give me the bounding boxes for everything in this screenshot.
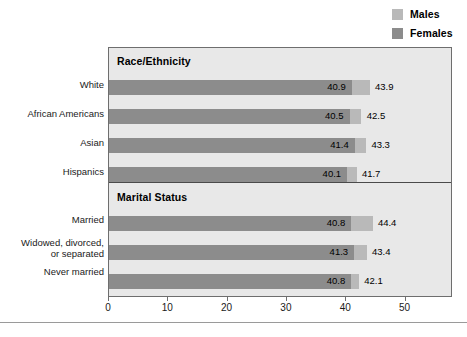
legend-swatch-icon-females <box>392 28 403 39</box>
x-tick-20 <box>227 297 228 301</box>
value-female-widowed-divorced-separated: 41.3 <box>314 246 348 257</box>
category-label-widowed-divorced-separated: Widowed, divorced, or separated <box>0 237 104 259</box>
x-tick-label-50: 50 <box>399 302 410 313</box>
category-label-african-americans: African Americans <box>0 108 104 119</box>
value-male-married: 44.4 <box>378 217 397 228</box>
value-female-never-married: 40.8 <box>311 275 345 286</box>
x-tick-0 <box>108 297 109 301</box>
panel-title-marital-status: Marital Status <box>117 191 187 203</box>
value-male-never-married: 42.1 <box>364 275 383 286</box>
x-tick-10 <box>167 297 168 301</box>
category-label-hispanics: Hispanics <box>0 166 104 177</box>
category-label-white: White <box>0 79 104 90</box>
x-tick-label-10: 10 <box>162 302 173 313</box>
category-label-married: Married <box>0 214 104 225</box>
panel-marital-status: Marital Status 40.8 44.4 41.3 43.4 40.8 … <box>109 182 451 298</box>
category-label-asian: Asian <box>0 137 104 148</box>
value-male-widowed-divorced-separated: 43.4 <box>372 246 391 257</box>
x-tick-label-0: 0 <box>105 302 111 313</box>
category-axis-labels: White African Americans Asian Hispanics … <box>0 47 104 297</box>
legend-label-males: Males <box>410 8 440 20</box>
value-female-african-americans: 40.5 <box>310 110 344 121</box>
panel-title-race-ethnicity: Race/Ethnicity <box>117 55 191 67</box>
value-male-african-americans: 42.5 <box>367 110 386 121</box>
x-tick-label-30: 30 <box>280 302 291 313</box>
x-tick-label-40: 40 <box>340 302 351 313</box>
panel-race-ethnicity: Race/Ethnicity 40.9 43.9 40.5 42.5 41.4 … <box>109 48 451 182</box>
legend-label-females: Females <box>410 27 453 39</box>
value-male-hispanics: 41.7 <box>362 168 381 179</box>
value-male-asian: 43.3 <box>371 139 390 150</box>
x-tick-50 <box>405 297 406 301</box>
value-female-white: 40.9 <box>312 81 346 92</box>
value-female-asian: 41.4 <box>315 139 349 150</box>
x-tick-40 <box>345 297 346 301</box>
x-axis: 0 10 20 30 40 50 <box>108 297 452 321</box>
legend-item-females: Females <box>392 25 464 41</box>
chart-legend: Males Females <box>392 6 464 44</box>
chart-plot-area: Race/Ethnicity 40.9 43.9 40.5 42.5 41.4 … <box>108 47 452 297</box>
bottom-divider <box>0 322 467 323</box>
value-female-hispanics: 40.1 <box>307 168 341 179</box>
x-tick-label-20: 20 <box>221 302 232 313</box>
category-label-never-married: Never married <box>0 266 104 277</box>
legend-item-males: Males <box>392 6 464 22</box>
x-tick-30 <box>286 297 287 301</box>
value-male-white: 43.9 <box>375 81 394 92</box>
legend-swatch-icon-males <box>392 9 403 20</box>
value-female-married: 40.8 <box>311 217 345 228</box>
